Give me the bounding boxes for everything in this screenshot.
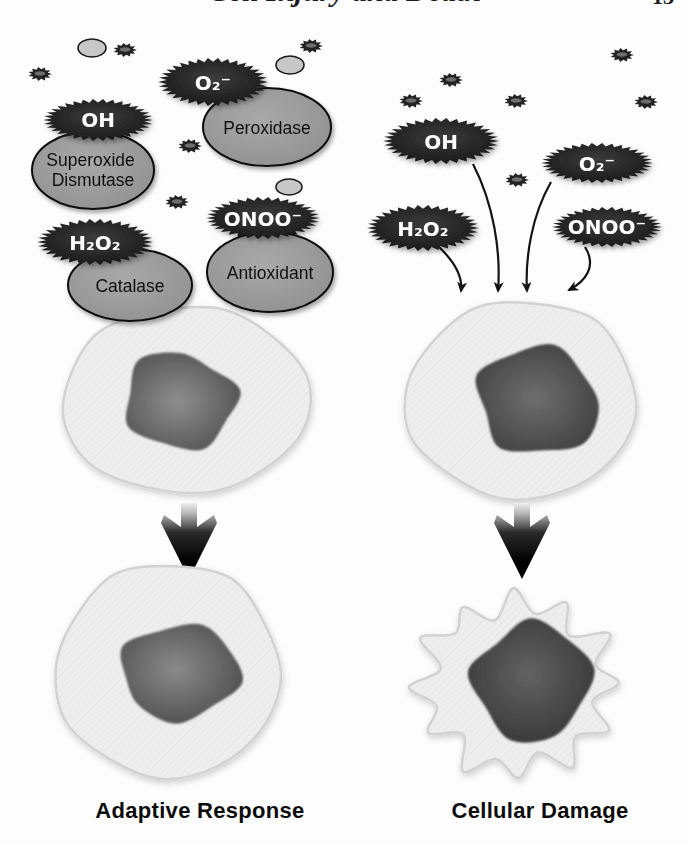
- radical-particle-icon: [505, 94, 529, 108]
- radical-particle-icon: [506, 173, 530, 187]
- enzyme-antioxidant: Antioxidant: [207, 232, 333, 312]
- down-arrow-right: [494, 503, 550, 579]
- enzyme-label: Dismutase: [52, 170, 135, 190]
- enzyme-label: Peroxidase: [223, 118, 311, 138]
- radical-particle-icon: [440, 73, 464, 87]
- ros-label: ONOO⁻: [568, 215, 646, 239]
- ros-blob-superoxide-right: O₂⁻: [541, 143, 653, 183]
- enzyme-label: Catalase: [95, 276, 164, 296]
- arrow-oh-to-cell: [473, 164, 499, 291]
- svg-text:Superoxide Dismutase: Superoxide Dismutase: [46, 150, 139, 190]
- page-number-cropped: 13: [652, 0, 674, 9]
- ros-label: OH: [424, 130, 458, 154]
- book-page: Cell Injury and Death 13 Superoxide Dism…: [0, 0, 688, 844]
- radical-particle-icon: [179, 139, 203, 153]
- radical-particle-icon: [400, 94, 424, 108]
- ros-label: H₂O₂: [397, 217, 448, 241]
- figure-canvas: Cell Injury and Death 13 Superoxide Dism…: [0, 0, 688, 844]
- cell-top-left: [63, 307, 311, 493]
- cell-bottom-right-damaged: [409, 588, 619, 778]
- vesicle-oval-icon: [276, 56, 304, 74]
- arrow-o2-to-cell: [527, 182, 551, 291]
- radical-particle-icon: [300, 39, 324, 53]
- enzyme-label: Antioxidant: [227, 263, 314, 283]
- ros-blob-peroxynitrite-left: ONOO⁻: [206, 197, 320, 239]
- cell-bottom-left-healthy: [56, 566, 281, 779]
- radical-particle-icon: [166, 195, 190, 209]
- vesicle-oval-icon: [276, 179, 302, 195]
- radical-particle-icon: [114, 43, 138, 57]
- enzyme-label: Superoxide: [46, 150, 135, 170]
- caption-adaptive-response: Adaptive Response: [95, 798, 304, 823]
- ros-blob-h2o2-right: H₂O₂: [367, 205, 479, 251]
- vesicle-oval-icon: [78, 39, 106, 57]
- ros-label: ONOO⁻: [224, 207, 302, 231]
- caption-cellular-damage: Cellular Damage: [452, 798, 629, 823]
- enzyme-superoxide-dismutase: Superoxide Dismutase: [32, 131, 154, 209]
- ros-blob-oh-left: OH: [43, 99, 153, 141]
- running-header-cropped: Cell Injury and Death: [209, 0, 482, 7]
- ros-label: O₂⁻: [579, 152, 615, 176]
- arrow-h2o2-to-cell: [438, 246, 461, 291]
- radical-particle-icon: [635, 95, 659, 109]
- radical-particle-icon: [29, 67, 53, 81]
- ros-label: H₂O₂: [69, 231, 120, 255]
- cell-top-right: [405, 302, 637, 499]
- ros-blob-oh-right: OH: [383, 118, 499, 164]
- ros-label: OH: [81, 108, 115, 132]
- ros-label: O₂⁻: [195, 71, 231, 95]
- arrow-onoo-to-cell: [569, 247, 590, 290]
- radical-particle-icon: [611, 48, 635, 62]
- ros-blob-peroxynitrite-right: ONOO⁻: [552, 207, 662, 247]
